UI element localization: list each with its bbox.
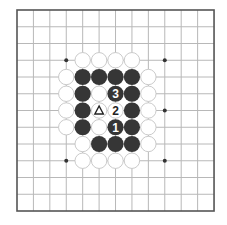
white-stone-disc bbox=[108, 53, 123, 68]
black-stone-disc bbox=[107, 69, 123, 85]
white-stone[interactable] bbox=[59, 120, 74, 135]
black-stone[interactable] bbox=[124, 86, 140, 102]
black-stone-disc bbox=[91, 69, 107, 85]
black-stone-disc bbox=[91, 136, 107, 152]
white-stone-disc bbox=[141, 69, 156, 84]
white-stone[interactable] bbox=[75, 53, 90, 68]
black-stone-disc bbox=[107, 136, 123, 152]
star-point bbox=[163, 109, 167, 113]
white-stone[interactable] bbox=[59, 69, 74, 84]
white-stone-disc bbox=[91, 86, 106, 101]
black-stone-disc bbox=[75, 102, 91, 118]
white-stone-disc bbox=[59, 103, 74, 118]
go-board[interactable]: 321 bbox=[0, 0, 227, 225]
white-stone-disc bbox=[59, 120, 74, 135]
black-stone[interactable] bbox=[91, 69, 107, 85]
white-stone[interactable] bbox=[141, 86, 156, 101]
white-stone-disc bbox=[108, 153, 123, 168]
white-stone[interactable] bbox=[108, 53, 123, 68]
black-stone-disc bbox=[75, 119, 91, 135]
black-stone-disc bbox=[124, 102, 140, 118]
star-point bbox=[163, 58, 167, 62]
white-stone-disc bbox=[91, 153, 106, 168]
black-stone[interactable] bbox=[75, 119, 91, 135]
white-stone-disc bbox=[91, 120, 106, 135]
white-stone[interactable] bbox=[108, 153, 123, 168]
black-stone[interactable] bbox=[107, 136, 123, 152]
black-stone[interactable] bbox=[124, 119, 140, 135]
white-stone[interactable] bbox=[91, 53, 106, 68]
go-board-diagram: 321 bbox=[0, 0, 227, 225]
white-stone[interactable] bbox=[91, 103, 106, 118]
black-stone[interactable] bbox=[75, 86, 91, 102]
white-stone-disc bbox=[124, 53, 139, 68]
black-stone-disc bbox=[124, 86, 140, 102]
white-stone[interactable] bbox=[141, 103, 156, 118]
black-stone[interactable]: 3 bbox=[107, 86, 123, 102]
white-stone[interactable] bbox=[124, 153, 139, 168]
white-stone-disc bbox=[75, 153, 90, 168]
white-stone-disc bbox=[141, 103, 156, 118]
black-stone[interactable] bbox=[124, 69, 140, 85]
white-stone[interactable]: 2 bbox=[108, 103, 123, 118]
move-number-label: 2 bbox=[112, 104, 119, 118]
white-stone-disc bbox=[124, 153, 139, 168]
white-stone-disc bbox=[59, 86, 74, 101]
black-stone[interactable] bbox=[75, 69, 91, 85]
white-stone-disc bbox=[141, 86, 156, 101]
white-stone[interactable] bbox=[91, 153, 106, 168]
white-stone-disc bbox=[141, 136, 156, 151]
white-stone[interactable] bbox=[59, 103, 74, 118]
black-stone-disc bbox=[124, 69, 140, 85]
black-stone-disc bbox=[75, 69, 91, 85]
black-stone[interactable]: 1 bbox=[107, 119, 123, 135]
white-stone-disc bbox=[141, 120, 156, 135]
white-stone[interactable] bbox=[141, 69, 156, 84]
move-number-label: 1 bbox=[112, 121, 119, 135]
black-stone-disc bbox=[75, 86, 91, 102]
black-stone[interactable] bbox=[107, 69, 123, 85]
star-point bbox=[163, 159, 167, 163]
star-point bbox=[64, 58, 68, 62]
white-stone[interactable] bbox=[141, 120, 156, 135]
white-stone[interactable] bbox=[141, 136, 156, 151]
white-stone[interactable] bbox=[75, 136, 90, 151]
white-stone[interactable] bbox=[124, 53, 139, 68]
white-stone-disc bbox=[91, 53, 106, 68]
white-stone[interactable] bbox=[59, 86, 74, 101]
black-stone[interactable] bbox=[124, 136, 140, 152]
white-stone-disc bbox=[75, 53, 90, 68]
white-stone[interactable] bbox=[91, 120, 106, 135]
black-stone[interactable] bbox=[91, 136, 107, 152]
white-stone-disc bbox=[75, 136, 90, 151]
white-stone[interactable] bbox=[91, 86, 106, 101]
move-number-label: 3 bbox=[112, 87, 119, 101]
black-stone-disc bbox=[124, 136, 140, 152]
black-stone[interactable] bbox=[75, 102, 91, 118]
star-point bbox=[64, 159, 68, 163]
black-stone[interactable] bbox=[124, 102, 140, 118]
white-stone[interactable] bbox=[75, 153, 90, 168]
black-stone-disc bbox=[124, 119, 140, 135]
white-stone-disc bbox=[59, 69, 74, 84]
